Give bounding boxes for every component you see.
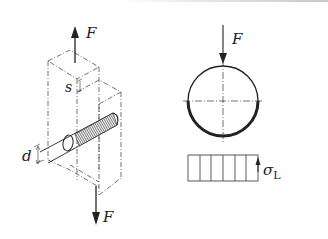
force-label-right: F <box>232 32 242 47</box>
pin-joint-isometric <box>34 50 121 195</box>
thickness-label: s <box>65 80 72 94</box>
bearing-stress-block <box>188 155 261 181</box>
force-arrow-up <box>71 26 79 63</box>
stress-label: σL <box>263 163 281 178</box>
diameter-label: d <box>22 149 32 164</box>
force-label-top: F <box>86 26 96 41</box>
stress-symbol: σ <box>263 161 273 179</box>
stress-subscript: L <box>273 169 280 182</box>
force-label-bottom: F <box>103 210 113 225</box>
diagram-canvas <box>0 0 328 239</box>
pin-cross-section <box>183 25 263 142</box>
